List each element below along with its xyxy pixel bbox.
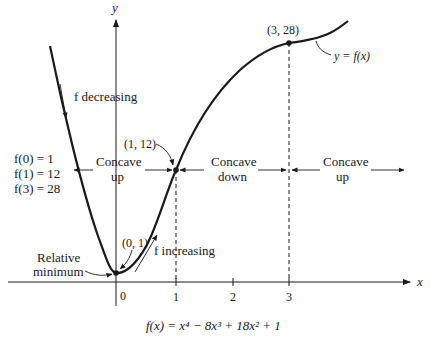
relative-minimum-label-line2: minimum: [33, 264, 84, 279]
point-label-0-1: (0, 1): [122, 236, 148, 250]
value-f0: f(0) = 1: [14, 151, 54, 166]
concavity-diagram: x y 0 1 2 3 (3, 28) (1, 12) (0, 1) y = f…: [0, 0, 430, 337]
point-label-3-28: (3, 28): [267, 23, 299, 37]
increasing-label: f increasing: [154, 243, 216, 258]
concave-down-line1: Concave: [211, 154, 257, 169]
point-relative-minimum: [113, 270, 119, 276]
pointer-curve-label: [316, 41, 331, 55]
tick-label-1: 1: [173, 290, 179, 304]
relative-minimum-label-line1: Relative: [37, 250, 81, 265]
pointer-relative-minimum: [85, 271, 112, 275]
function-curve: [50, 21, 348, 273]
y-axis-label: y: [110, 0, 118, 15]
curve-label: y = f(x): [333, 49, 370, 63]
value-f3: f(3) = 28: [14, 181, 60, 196]
tick-label-3: 3: [286, 290, 292, 304]
concave-up-3-line1: Concave: [323, 154, 369, 169]
pointer-1-12: [156, 144, 173, 165]
decreasing-label: f decreasing: [74, 89, 138, 104]
concave-up-1-line2: up: [111, 169, 124, 184]
tick-label-0: 0: [120, 289, 126, 303]
x-axis-label: x: [416, 274, 423, 289]
point-label-1-12: (1, 12): [124, 137, 156, 151]
point-inflection-1: [173, 167, 179, 173]
function-caption: f(x) = x⁴ − 8x³ + 18x² + 1: [146, 318, 281, 333]
concave-up-3-line2: up: [336, 169, 349, 184]
point-inflection-3: [286, 40, 292, 46]
concave-down-line2: down: [218, 169, 247, 184]
tick-label-2: 2: [230, 290, 236, 304]
value-f1: f(1) = 12: [14, 166, 60, 181]
concave-up-1-line1: Concave: [96, 154, 142, 169]
